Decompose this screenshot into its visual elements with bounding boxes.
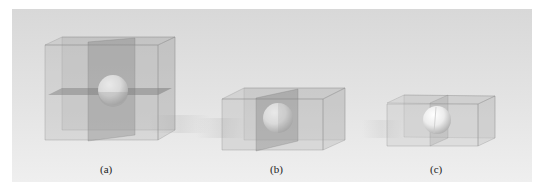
panel-label-c: (c) <box>430 163 443 176</box>
sphere-c <box>423 106 451 134</box>
panel-label-b: (b) <box>270 163 283 176</box>
figure-canvas: (a) (b) (c) <box>0 0 540 195</box>
panel-label-a: (a) <box>100 163 113 176</box>
